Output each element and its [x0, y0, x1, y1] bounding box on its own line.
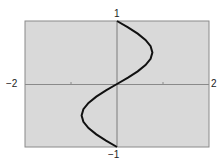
y-min-label: −1 [108, 150, 119, 160]
y-max-label: 1 [114, 9, 120, 19]
x-min-label: −2 [6, 79, 17, 89]
x-max-label: 2 [211, 79, 217, 89]
plot-area [0, 0, 224, 165]
